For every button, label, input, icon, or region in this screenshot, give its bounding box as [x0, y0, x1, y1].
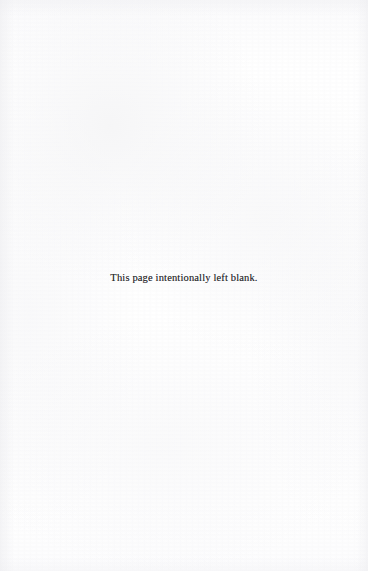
scan-grain-texture	[0, 0, 368, 571]
scan-edge-vignette	[0, 0, 368, 571]
blank-page-notice: This page intentionally left blank.	[0, 271, 368, 285]
scanned-page: This page intentionally left blank.	[0, 0, 368, 571]
